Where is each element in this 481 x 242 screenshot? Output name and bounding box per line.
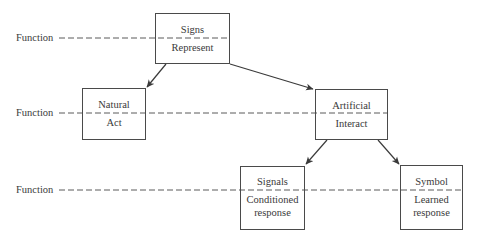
arrow-signs-to-natural [147,64,166,87]
node-symbol-function-line2: response [401,207,462,219]
node-symbol-name: Symbol [401,176,462,188]
node-natural: Natural Act [82,88,146,140]
sign-hierarchy-diagram: Function Function Function Signs Represe… [0,0,481,242]
node-symbol-function-line1: Learned [401,194,462,206]
arrow-artificial-to-symbol [378,140,399,164]
arrow-artificial-to-signals [306,140,327,164]
node-signs: Signs Represent [155,13,230,64]
node-artificial-name: Artificial [316,100,387,112]
node-signals-name: Signals [241,176,304,188]
node-natural-function: Act [83,117,145,129]
node-artificial-function: Interact [316,118,387,130]
function-label-row-1: Function [16,32,53,44]
node-artificial: Artificial Interact [315,89,388,140]
node-signs-name: Signs [156,24,229,36]
node-natural-name: Natural [83,99,145,111]
node-signs-function: Represent [156,42,229,54]
node-signals-function-line2: response [241,207,304,219]
function-label-row-2: Function [16,107,53,119]
function-label-row-3: Function [16,184,53,196]
arrow-signs-to-artificial [230,64,313,89]
node-symbol: Symbol Learned response [400,165,463,230]
node-signals: Signals Conditioned response [240,166,305,230]
node-signals-function-line1: Conditioned [241,194,304,206]
